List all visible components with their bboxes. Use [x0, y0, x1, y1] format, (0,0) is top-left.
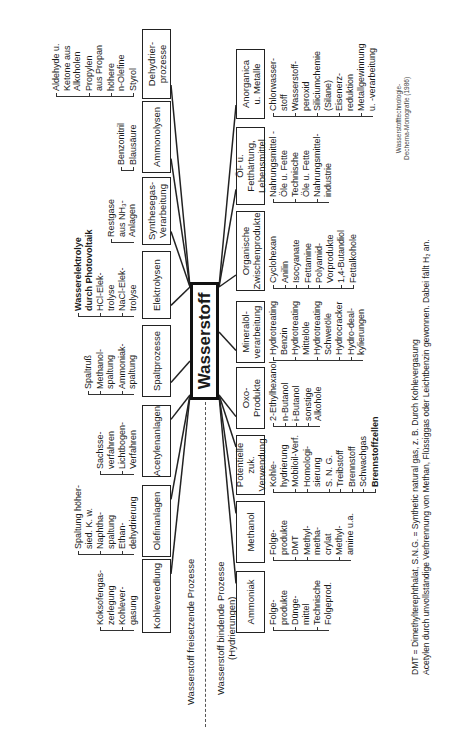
node-label: Organische Zwischenprodukte — [240, 212, 262, 289]
list-item: Metallgewinnung u. -verarbeitung — [356, 43, 377, 117]
node-oxo-produkte: Oxo-Produkte — [236, 367, 265, 429]
node-anorganica-u-metalle: Anorganica u. Metalle — [236, 49, 265, 119]
central-node-wasserstoff: Wasserstoff — [190, 282, 219, 400]
connector-line — [219, 275, 236, 287]
list-item: Hydrotreating Schweröle — [312, 301, 333, 361]
list-item: Restgase aus NH₃- Anlagen — [106, 199, 138, 243]
list-item: Nahrungsmittel- industrie — [312, 131, 333, 203]
list-item: Hydrotreating Benzin — [268, 301, 289, 361]
list-item: Anilin — [280, 230, 291, 289]
list-item: Mobiloil-Verf. — [290, 416, 301, 493]
node-label: Oxo-Produkte — [240, 371, 262, 425]
item-list: Nahrungsmittel - Öle u. FetteTechnische … — [268, 131, 334, 203]
list-item: Technische Öle u. Fette — [290, 131, 311, 203]
node-label: Methanol — [245, 512, 256, 551]
diagram-stage: Wasserstoff Wasserstoff freisetzende Pro… — [0, 0, 458, 735]
item-list: Kohle- hydrierungMobiloil-Verf.Homologi-… — [268, 416, 381, 493]
list-item: Schwachgas — [358, 416, 369, 493]
node-label: Olefinanlagen — [151, 492, 162, 551]
item-list: Koksofengas- zerlegungKohlever- gasung — [95, 570, 139, 631]
node-synthesegas-verarbeitung: Synthesegas- Verarbeitung — [142, 177, 171, 245]
node-olefinanlagen: Olefinanlagen — [142, 485, 171, 557]
node-label: Spaltprozesse — [151, 331, 162, 391]
list-item: Folge- produkte — [268, 580, 289, 631]
connector-line — [171, 287, 190, 305]
item-list: 2-Ethylhexanoln-Butanoli-Butanolsonstige… — [268, 361, 325, 427]
connector-line — [171, 361, 190, 383]
list-item: Hydrotreating Mittelöle — [290, 301, 311, 361]
list-item: Hydrocracker — [334, 301, 345, 361]
node-label: Kohleveredlung — [151, 563, 162, 629]
node-spaltprozesse: Spaltprozesse — [142, 325, 171, 397]
item-list: Spaltung höher- sied. K. w.Naphtha- spal… — [73, 485, 139, 555]
list-item: Methyl- amine u.a. — [334, 513, 355, 561]
item-list: Sachsse- verfahrenLichtbogen- Verfahren — [95, 422, 139, 475]
list-item: Styrol — [128, 43, 139, 97]
node-organische-zwischenprodukte: Organische Zwischenprodukte — [236, 211, 265, 291]
credit-line-1: Wasserstofftechnologie- — [395, 77, 403, 160]
item-list: Restgase aus NH₃- Anlagen — [106, 199, 139, 243]
list-item: Wasserstoff- peroxid — [290, 43, 311, 117]
node-label: Dehydrier- prozesse — [146, 42, 168, 86]
list-item: Brennstoffzellen — [370, 416, 381, 493]
list-item: Spaltruß — [83, 343, 94, 395]
list-item: Wasserelektrolye durch Photovoltaik — [73, 229, 94, 317]
node-methanol: Methanol — [236, 501, 265, 563]
list-item: Isocyanate — [291, 230, 302, 289]
node-ammonolysen: Ammonolysen — [142, 101, 171, 173]
item-list: BenzonitrilBlausäure — [116, 123, 139, 171]
item-list: Aldehyde u. Ketone aus AlkoholenPropylen… — [51, 43, 139, 97]
list-item: Cyclohexan — [268, 230, 279, 289]
list-item: Koksofengas- zerlegung — [95, 570, 116, 631]
list-item: Sachsse- verfahren — [95, 422, 116, 475]
list-item: Methanol- spaltung — [95, 343, 116, 395]
list-item: Lichtbogen- Verfahren — [117, 422, 138, 475]
node-label: Ammoniak — [245, 580, 256, 625]
footnote-line-1: DMT = Dimethylterephthalat, S.N.G. = Syn… — [410, 339, 421, 675]
list-item: Benzonitril — [116, 123, 127, 171]
list-item: Chlorwasser- stoff — [268, 43, 289, 117]
list-item: höhere n-Olefine — [106, 43, 127, 97]
list-item: Spaltung höher- sied. K. w. — [73, 485, 94, 555]
list-item: Propylen aus Propan — [84, 43, 105, 97]
list-item: Naphtha- spaltung — [95, 485, 116, 555]
node-label: Potentielle zuk. Verwendung — [234, 439, 267, 492]
node-acetylenanlagen: Acetylenanlagen — [142, 405, 171, 477]
list-item: Fettamine — [303, 230, 314, 289]
item-list: Chlorwasser- stoffWasserstoff- peroxidSi… — [268, 43, 378, 117]
list-item: Methyl- metha- crylat — [302, 513, 334, 561]
list-item: Kohle- hydrierung — [268, 416, 289, 493]
node-elektrolysen: Elektrolysen — [142, 251, 171, 319]
list-item: Eisenerz- reduktion — [334, 43, 355, 117]
list-item: Hydro-deal- kylierungen — [346, 301, 367, 361]
list-item: 1,4-Butandiol — [336, 230, 347, 289]
list-item: Ammoniak- spaltung — [117, 343, 138, 395]
release-label-text: Wasserstoff freisetzende Prozesse — [185, 559, 196, 705]
connector-line — [171, 159, 190, 287]
item-list: Folge- produkteDMTMethyl- metha- crylatM… — [268, 513, 356, 561]
list-item: Nahrungsmittel - Öle u. Fette — [268, 131, 289, 203]
list-item: Ethan- dehydrierung — [117, 485, 138, 555]
footnote-line-2: Acetylen durch unvollständige Verbrennun… — [421, 239, 432, 675]
node-label: Mineralöl- verarbeitung — [240, 306, 262, 359]
list-item: Polyamid- Vorprodukte — [314, 230, 335, 289]
node-dehydrier-prozesse: Dehydrier- prozesse — [142, 29, 171, 99]
node-ammoniak: Ammoniak — [236, 571, 265, 633]
list-item: 2-Ethylhexanol — [268, 361, 279, 427]
node-label: Öl- u. Fetthärtung, Lebensmittel — [234, 131, 267, 201]
node-label: Synthesegas- Verarbeitung — [146, 182, 168, 240]
list-item: Fettalkohole — [348, 230, 359, 289]
node-mineralöl-verarbeitung: Mineralöl- verarbeitung — [236, 301, 265, 363]
item-list: CyclohexanAnilinIsocyanateFettaminePolya… — [268, 230, 359, 289]
item-list: Hydrotreating BenzinHydrotreating Mittel… — [268, 301, 368, 361]
node-label: Acetylenanlagen — [151, 406, 162, 476]
list-item: Treibstoff — [335, 416, 346, 493]
node-label: Ammonolysen — [151, 107, 162, 167]
section-label-release: Wasserstoff freisetzende Prozesse — [185, 559, 196, 705]
list-item: Folge- produkte — [268, 513, 289, 561]
node-potentielle-zuk-verwendung: Potentielle zuk. Verwendung — [236, 435, 265, 495]
list-item: n-Butanol — [280, 361, 291, 427]
list-item: Siliciumchemie (Silane) — [312, 43, 333, 117]
list-item: Blausäure — [128, 123, 139, 171]
binding-label-text: Wasserstoff bindende Prozesse — [215, 561, 226, 695]
